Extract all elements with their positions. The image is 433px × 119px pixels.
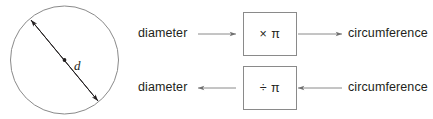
circle-drawing <box>0 0 130 119</box>
operation-label-multiply: × π <box>260 27 281 41</box>
diagram-root: d diameter circumference × π diameter ci… <box>0 0 433 119</box>
label-circumference-top: circumference <box>348 27 428 40</box>
operation-box-divide: ÷ π <box>243 66 297 110</box>
circle-figure: d <box>0 0 130 119</box>
label-diameter-bottom: diameter <box>138 81 187 94</box>
flow-diagram: diameter circumference × π diameter circ… <box>130 0 433 119</box>
label-circumference-bottom: circumference <box>348 81 428 94</box>
label-diameter-top: diameter <box>138 27 187 40</box>
diameter-symbol-label: d <box>74 58 81 74</box>
circle-center-dot <box>63 58 67 62</box>
operation-box-multiply: × π <box>243 12 297 56</box>
operation-label-divide: ÷ π <box>260 81 280 95</box>
